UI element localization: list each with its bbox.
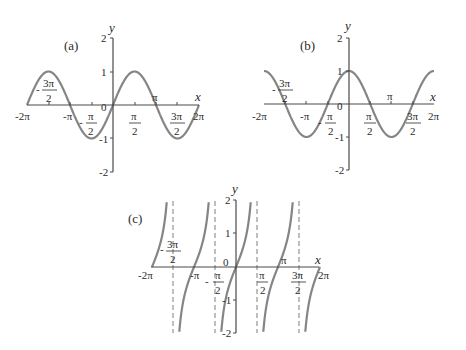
- graph-b-cosine: (b) y x 2 1 0 -1 -2 -2π -π π 2π - 3π 2 -…: [252, 18, 440, 176]
- svg-text:2: 2: [174, 125, 180, 137]
- panel-label: (b): [300, 38, 315, 53]
- y-tick-minus-1: -1: [99, 133, 108, 145]
- svg-text:π: π: [215, 269, 221, 281]
- svg-text:-: -: [160, 243, 164, 255]
- x-axis-label: x: [314, 252, 321, 267]
- svg-text:-: -: [36, 83, 40, 95]
- y-tick-1: 1: [101, 66, 107, 78]
- x-tick-2pi: 2π: [193, 110, 205, 122]
- svg-text:2: 2: [367, 125, 373, 137]
- x-tick-pi-over-2: π 2: [257, 269, 268, 296]
- svg-text:2: 2: [132, 125, 138, 137]
- svg-text:-: -: [318, 116, 322, 128]
- svg-text:-: -: [205, 275, 209, 287]
- svg-text:π: π: [259, 269, 265, 281]
- svg-text:π: π: [366, 110, 372, 122]
- x-tick-2pi: 2π: [428, 110, 440, 122]
- x-tick-pi: π: [387, 90, 393, 102]
- svg-text:π: π: [131, 110, 137, 122]
- y-tick-minus-1: -1: [222, 294, 231, 306]
- x-tick-minus-2pi: -2π: [138, 269, 153, 281]
- svg-text:2: 2: [88, 125, 94, 137]
- svg-text:3π: 3π: [171, 110, 183, 122]
- y-tick-minus-2: -2: [99, 166, 108, 178]
- x-axis-label: x: [429, 89, 436, 104]
- y-tick-minus-1: -1: [335, 131, 344, 143]
- y-axis-label: y: [343, 18, 351, 33]
- x-tick-pi: π: [281, 254, 287, 266]
- y-tick-2: 2: [225, 194, 231, 206]
- x-tick-3pi-over-2: 3π 2: [406, 110, 421, 137]
- x-tick-pi-over-2: π 2: [129, 110, 141, 137]
- y-tick-0: 0: [101, 101, 107, 113]
- svg-text:2: 2: [215, 284, 221, 296]
- x-tick-pi: π: [152, 91, 158, 103]
- x-tick-minus-2pi: -2π: [15, 110, 30, 122]
- y-tick-1: 1: [337, 65, 343, 77]
- y-tick-2: 2: [337, 32, 343, 44]
- svg-text:-: -: [272, 83, 276, 95]
- svg-text:π: π: [88, 110, 94, 122]
- y-axis-label: y: [107, 20, 115, 35]
- svg-text:3π: 3π: [279, 77, 291, 89]
- graph-c-tangent: (c) y x 2 1 0 -1 -2 -2π -π π 2π - 3π 2 -…: [128, 181, 330, 339]
- x-tick-3pi-over-2: 3π 2: [170, 110, 185, 137]
- graph-a-sine: (a) y x 2 1 0 -1 -2 -2π -π π 2π - 3π 2 -…: [15, 20, 205, 178]
- svg-text:2: 2: [282, 92, 288, 104]
- x-tick-minus-pi: -π: [63, 110, 73, 122]
- y-tick-minus-2: -2: [222, 327, 231, 339]
- svg-text:π: π: [327, 110, 333, 122]
- trig-graphs-figure: (a) y x 2 1 0 -1 -2 -2π -π π 2π - 3π 2 -…: [0, 0, 466, 350]
- svg-text:2: 2: [295, 284, 301, 296]
- svg-text:2: 2: [328, 125, 334, 137]
- x-axis-label: x: [194, 89, 201, 104]
- x-tick-2pi: 2π: [318, 269, 330, 281]
- y-tick-0: 0: [337, 100, 343, 112]
- svg-text:3π: 3π: [292, 269, 304, 281]
- y-tick-2: 2: [101, 32, 107, 44]
- panel-label: (a): [64, 38, 78, 53]
- svg-text:2: 2: [170, 253, 176, 265]
- x-tick-minus-3pi-over-2: - 3π 2: [160, 238, 181, 265]
- y-tick-1: 1: [225, 227, 231, 239]
- x-tick-minus-pi-over-2: - π 2: [79, 110, 97, 137]
- y-tick-0: 0: [223, 256, 229, 268]
- x-tick-minus-pi: -π: [190, 269, 200, 281]
- y-tick-minus-2: -2: [335, 164, 344, 176]
- svg-text:2: 2: [260, 284, 266, 296]
- x-tick-minus-2pi: -2π: [252, 110, 267, 122]
- svg-text:3π: 3π: [43, 77, 55, 89]
- panel-label: (c): [128, 211, 142, 226]
- svg-text:3π: 3π: [167, 238, 179, 250]
- svg-text:2: 2: [410, 125, 416, 137]
- y-axis-label: y: [230, 181, 238, 196]
- x-tick-minus-pi-over-2: - π 2: [318, 110, 336, 137]
- x-tick-minus-pi: -π: [300, 110, 310, 122]
- svg-text:2: 2: [46, 92, 52, 104]
- svg-text:-: -: [79, 116, 83, 128]
- svg-text:3π: 3π: [407, 110, 419, 122]
